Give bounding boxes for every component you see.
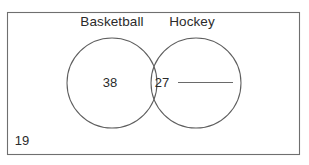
basketball-only-count: 38 bbox=[103, 75, 117, 90]
outside-sets-count: 19 bbox=[15, 133, 29, 148]
universal-set-rectangle bbox=[8, 13, 300, 155]
venn-diagram-canvas: Basketball Hockey 38 27 19 bbox=[0, 0, 309, 165]
basketball-set-label: Basketball bbox=[80, 14, 143, 29]
venn-diagram-figure: Basketball Hockey 38 27 19 bbox=[0, 0, 309, 165]
hockey-set-label: Hockey bbox=[169, 14, 215, 29]
intersection-count: 27 bbox=[155, 75, 169, 90]
